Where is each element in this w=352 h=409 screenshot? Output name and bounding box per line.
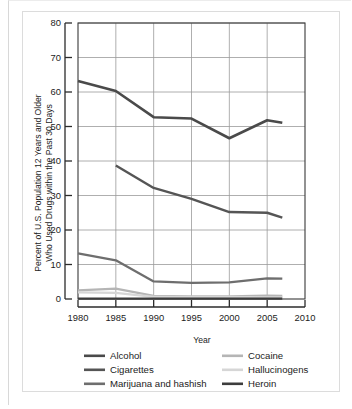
x-axis-title: Year	[193, 335, 211, 345]
legend-item: Hallucinogens	[222, 364, 308, 375]
legend-item: Heroin	[222, 378, 276, 389]
y-tick-label: 50	[51, 121, 61, 132]
legend-item: Marijuana and hashish	[84, 378, 207, 389]
data-series-group	[78, 81, 282, 299]
y-axis-spine	[65, 23, 72, 299]
drug-use-line-chart: Percent of U.S. Population 12 Years and …	[22, 11, 340, 392]
y-tick-label: 10	[51, 259, 61, 270]
x-tick-label: 1980	[68, 312, 89, 323]
series-line-marijuana-and-hashish	[78, 253, 282, 282]
legend-item: Alcohol	[84, 350, 141, 361]
legend-label: Cocaine	[248, 350, 283, 361]
legend-label: Heroin	[248, 378, 276, 389]
series-line-cigarettes	[116, 165, 282, 217]
legend-label: Marijuana and hashish	[110, 378, 207, 389]
x-tick-label: 2010	[295, 312, 316, 323]
gridlines	[78, 23, 305, 299]
legend-label: Alcohol	[110, 350, 141, 361]
y-tick-label: 40	[51, 155, 61, 166]
figure-root: Percent of U.S. Population 12 Years and …	[0, 0, 352, 409]
y-tick-label: 20	[51, 224, 61, 235]
x-tick-label: 2000	[219, 312, 240, 323]
legend-item: Cocaine	[222, 350, 283, 361]
y-tick-label: 70	[51, 52, 61, 63]
chart-legend: AlcoholCigarettesMarijuana and hashishCo…	[84, 350, 308, 389]
x-tick-label: 1985	[105, 312, 126, 323]
legend-label: Hallucinogens	[248, 364, 308, 375]
y-tick-label: 60	[51, 86, 61, 97]
y-tick-labels: 01020304050607080	[51, 17, 61, 304]
x-tick-label: 2005	[257, 312, 278, 323]
y-tick-label: 80	[51, 17, 61, 28]
x-tick-label: 1990	[143, 312, 164, 323]
y-axis-title-line1: Percent of U.S. Population 12 Years and …	[33, 94, 43, 271]
y-tick-label: 30	[51, 190, 61, 201]
y-tick-label: 0	[56, 293, 61, 304]
series-line-alcohol	[78, 81, 282, 138]
x-tick-label: 1995	[181, 312, 202, 323]
legend-item: Cigarettes	[84, 364, 154, 375]
legend-label: Cigarettes	[110, 364, 154, 375]
x-tick-labels: 1980198519901995200020052010	[68, 312, 316, 323]
x-axis-spine	[78, 300, 305, 307]
